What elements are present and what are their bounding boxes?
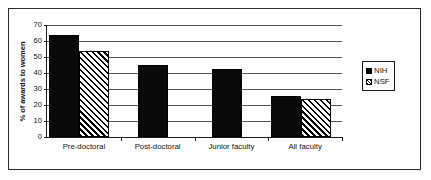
y-tick-label: 10 — [34, 117, 42, 125]
y-tick-mark — [44, 25, 47, 26]
gridline — [47, 25, 342, 26]
bar-nsf-pre-doctoral — [79, 51, 109, 137]
x-tick-label: Post-doctoral — [135, 143, 181, 151]
legend-item-nsf: NSF — [366, 76, 390, 87]
y-tick-label: 40 — [34, 69, 42, 77]
hatched-square-icon — [366, 79, 372, 85]
y-tick-mark — [44, 73, 47, 74]
bar-nsf-all-faculty — [301, 99, 331, 137]
x-tick-mark — [342, 137, 343, 141]
y-tick-label: 30 — [34, 85, 42, 93]
y-axis-title: % of awards to women — [17, 25, 29, 138]
gridline — [47, 41, 342, 42]
y-tick-label: 70 — [34, 21, 42, 29]
bar-nih-junior-faculty — [212, 69, 242, 137]
x-tick-label: Pre-doctoral — [63, 143, 105, 151]
y-tick-label: 20 — [34, 101, 42, 109]
x-tick-mark — [121, 137, 122, 141]
x-tick-mark — [195, 137, 196, 141]
y-tick-mark — [44, 121, 47, 122]
y-tick-mark — [44, 105, 47, 106]
y-tick-label: 0 — [38, 133, 42, 141]
x-tick-label: Junior faculty — [208, 143, 254, 151]
y-tick-mark — [44, 137, 47, 138]
x-tick-mark — [268, 137, 269, 141]
y-tick-label: 50 — [34, 53, 42, 61]
solid-black-square-icon — [366, 68, 372, 74]
bar-nih-all-faculty — [271, 96, 301, 137]
chart-figure: % of awards to women 010203040506070 Pre… — [0, 0, 431, 180]
y-tick-mark — [44, 41, 47, 42]
bar-nih-post-doctoral — [138, 65, 168, 137]
legend-item-nih: NIH — [366, 65, 390, 76]
x-tick-label: All faculty — [288, 143, 321, 151]
chart-legend: NIH NSF — [362, 61, 395, 91]
y-tick-label: 60 — [34, 37, 42, 45]
legend-item-label: NSF — [374, 78, 390, 86]
bar-nih-pre-doctoral — [49, 35, 79, 137]
plot-area: 010203040506070 Pre-doctoralPost-doctora… — [46, 25, 342, 138]
y-tick-mark — [44, 57, 47, 58]
legend-item-label: NIH — [374, 67, 387, 75]
y-tick-mark — [44, 89, 47, 90]
